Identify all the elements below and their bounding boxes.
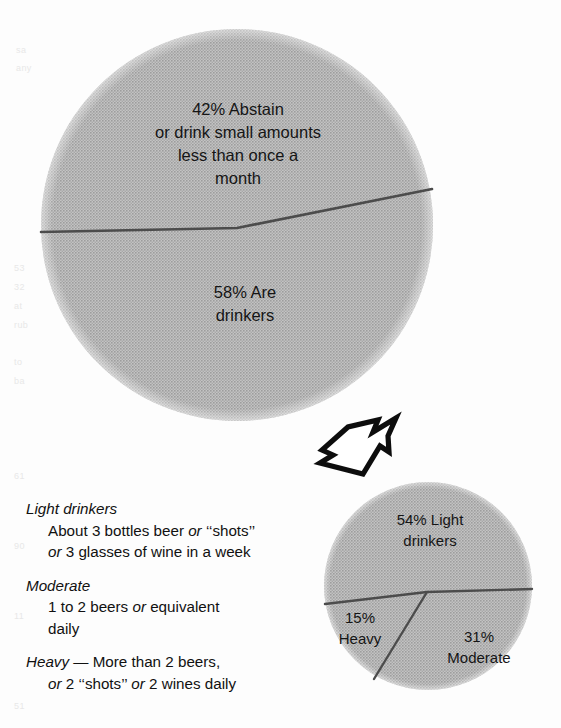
definition-group: Light drinkersAbout 3 bottles beer or ‘‘… [26, 498, 336, 563]
definition-emphasis: or [188, 522, 202, 539]
definition-text: equivalent [146, 598, 219, 615]
definition-emphasis: or [48, 543, 62, 560]
definition-body: About 3 bottles beer or ‘‘shots’’or 3 gl… [26, 520, 336, 563]
definition-line: or 2 ‘‘shots’’ or 2 wines daily [48, 673, 336, 695]
definition-term: Heavy [26, 653, 69, 670]
definition-emphasis: or [131, 675, 145, 692]
definition-body: or 2 ‘‘shots’’ or 2 wines daily [26, 673, 336, 695]
definition-text: 3 glasses of wine in a week [62, 543, 251, 560]
definition-line: daily [48, 618, 336, 640]
callout-arrow-icon [320, 418, 396, 474]
definition-line: About 3 bottles beer or ‘‘shots’’ [48, 520, 336, 542]
drinker-definitions-list: Light drinkersAbout 3 bottles beer or ‘‘… [26, 498, 336, 694]
definition-term-rest: — More than 2 beers, [69, 653, 220, 670]
main-pie-label-drinkers: 58% Are drinkers [145, 281, 345, 327]
definition-group: Moderate1 to 2 beers or equivalentdaily [26, 575, 336, 640]
main-pie-edge-softener [41, 29, 433, 421]
figure-root: sa any 53 32 at rub to ba 61 90 11 51 [0, 0, 561, 728]
definition-text: About 3 bottles beer [48, 522, 188, 539]
definition-text: 2 wines daily [145, 675, 236, 692]
detail-pie-label-light: 54% Light drinkers [355, 509, 505, 551]
definition-term-line: Heavy — More than 2 beers, [26, 651, 336, 673]
main-pie-label-abstain: 42% Abstain or drink small amounts less … [78, 98, 398, 190]
definition-line: or 3 glasses of wine in a week [48, 541, 336, 563]
definition-text: ‘‘shots’’ [202, 522, 255, 539]
definition-line: 1 to 2 beers or equivalent [48, 596, 336, 618]
definition-group: Heavy — More than 2 beers,or 2 ‘‘shots’’… [26, 651, 336, 694]
definition-text: 2 ‘‘shots’’ [62, 675, 132, 692]
definition-text: 1 to 2 beers [48, 598, 132, 615]
definition-emphasis: or [132, 598, 146, 615]
main-pie-group[interactable] [41, 29, 433, 421]
definition-emphasis: or [48, 675, 62, 692]
definition-term: Moderate [26, 575, 336, 597]
definition-term: Light drinkers [26, 498, 336, 520]
callout-arrow-group [320, 418, 396, 474]
definition-body: 1 to 2 beers or equivalentdaily [26, 596, 336, 639]
definition-text: daily [48, 620, 79, 637]
detail-pie-label-moderate: 31% Moderate [424, 626, 534, 668]
